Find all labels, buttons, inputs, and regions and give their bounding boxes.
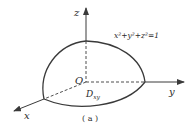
figure-caption: ( a ) [82,114,98,123]
arc-yz [86,41,145,82]
z-axis-label: z [73,7,80,18]
x-axis-label: x [24,110,30,121]
region-letter: D [85,89,93,99]
region-subscript: xy [93,93,100,101]
y-axis-label: y [168,86,175,97]
sphere-octant-diagram: z y x O x²+y²+z²=1 Dxy ( a ) [0,0,193,134]
region-label: Dxy [85,89,101,101]
origin-label: O [75,75,83,86]
arc-xz [43,41,86,99]
surface-equation: x²+y²+z²=1 [114,31,159,40]
